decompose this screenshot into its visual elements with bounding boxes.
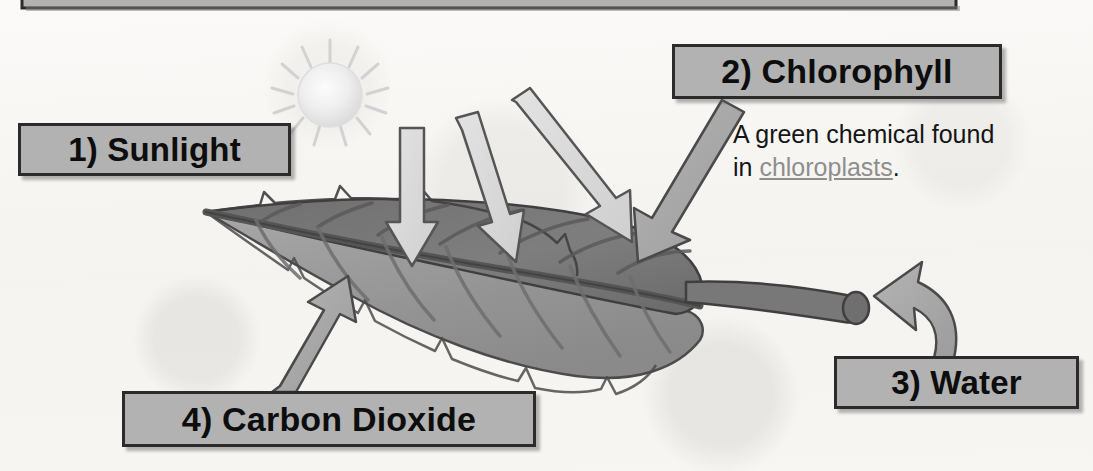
chlorophyll-note-line1: A green chemical found (733, 120, 994, 148)
label-box-carbon-dioxide[interactable]: 4) Carbon Dioxide (122, 391, 536, 447)
label-water-text: 3) Water (891, 364, 1022, 402)
chlorophyll-note-line2-prefix: in (733, 153, 759, 181)
carbon-dioxide-arrow (272, 276, 356, 392)
water-arrow (874, 262, 956, 358)
label-box-chlorophyll[interactable]: 2) Chlorophyll (672, 44, 1002, 99)
label-carbon-dioxide-text: 4) Carbon Dioxide (182, 400, 476, 439)
label-box-sunlight[interactable]: 1) Sunlight (18, 123, 291, 176)
label-chlorophyll-text: 2) Chlorophyll (721, 52, 952, 91)
chlorophyll-description: A green chemical found in chloroplasts. (733, 118, 1063, 184)
label-sunlight-text: 1) Sunlight (68, 131, 241, 169)
top-title-bar (22, 0, 960, 11)
chlorophyll-arrow (634, 100, 744, 262)
chloroplasts-link[interactable]: chloroplasts (759, 153, 892, 181)
chlorophyll-note-period: . (893, 153, 900, 181)
photosynthesis-diagram-page: 1) Sunlight 2) Chlorophyll 3) Water 4) C… (0, 0, 1093, 471)
label-box-water[interactable]: 3) Water (834, 356, 1079, 409)
